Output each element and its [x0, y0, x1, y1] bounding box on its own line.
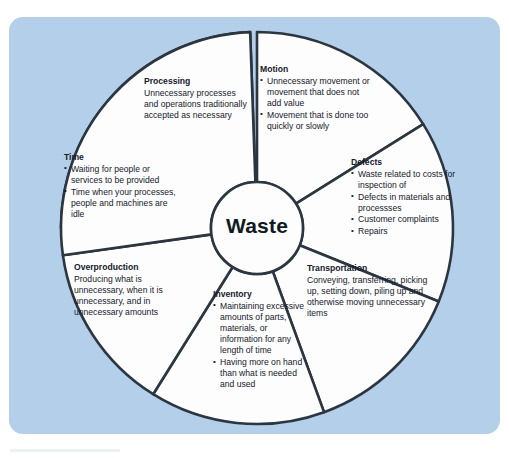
segment-title-transportation: Transportation [307, 263, 435, 274]
segment-bullets-time: Waiting for people or services to be pro… [64, 164, 180, 220]
segment-label-defects[interactable]: Defects Waste related to costs for inspe… [351, 157, 463, 238]
segment-label-overproduction[interactable]: Overproduction Producing what is unneces… [74, 262, 194, 318]
segment-body-overproduction: Producing what is unnecessary, when it i… [74, 274, 194, 319]
bullet-item: Defects in materials and processses [351, 192, 463, 214]
hub-label: Waste [211, 214, 303, 238]
diagram-canvas: Waste Processing Unnecessary processes a… [0, 0, 509, 458]
segment-bullets-inventory: Maintaining excessive amounts of parts, … [213, 301, 305, 391]
bullet-item: Unnecessary movement or movement that do… [260, 76, 372, 110]
segment-title-processing: Processing [144, 76, 252, 87]
bullet-item: Customer complaints [351, 214, 463, 225]
segment-body-processing: Unnecessary processes and operations tra… [144, 88, 252, 122]
segment-title-time: Time [64, 152, 180, 163]
bullet-item: Movement that is done too quickly or slo… [260, 110, 372, 132]
segment-title-motion: Motion [260, 64, 372, 75]
bullet-item: Waiting for people or services to be pro… [64, 164, 180, 186]
segment-label-inventory[interactable]: Inventory Maintaining excessive amounts … [213, 289, 305, 391]
segment-label-processing[interactable]: Processing Unnecessary processes and ope… [144, 76, 252, 121]
segment-title-overproduction: Overproduction [74, 262, 194, 273]
segment-label-motion[interactable]: Motion Unnecessary movement or movement … [260, 64, 372, 133]
segment-title-inventory: Inventory [213, 289, 305, 300]
bullet-item: Repairs [351, 226, 463, 237]
bullet-item: Time when your processes, people and mac… [64, 187, 180, 221]
bullet-item: Waste related to costs for inspection of [351, 169, 463, 191]
bullet-item: Maintaining excessive amounts of parts, … [213, 301, 305, 357]
segment-bullets-motion: Unnecessary movement or movement that do… [260, 76, 372, 132]
segment-label-transportation[interactable]: Transportation Conveying, transferring, … [307, 263, 435, 319]
segment-label-time[interactable]: Time Waiting for people or services to b… [64, 152, 180, 221]
segment-title-defects: Defects [351, 157, 463, 168]
segment-body-transportation: Conveying, transferring, picking up, set… [307, 275, 435, 320]
segment-bullets-defects: Waste related to costs for inspection of… [351, 169, 463, 238]
bullet-item: Having more on hand than what is needed … [213, 357, 305, 391]
